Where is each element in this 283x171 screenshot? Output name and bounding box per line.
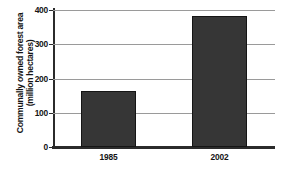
y-tick-mark bbox=[49, 113, 53, 114]
x-axis-label-2002: 2002 bbox=[211, 152, 229, 162]
y-tick-label: 100 bbox=[35, 108, 48, 118]
x-axis-label-1985: 1985 bbox=[100, 152, 118, 162]
y-tick-label: 400 bbox=[35, 5, 48, 15]
bar-1985 bbox=[81, 91, 136, 148]
plot-area: 0100200300400 bbox=[53, 10, 275, 147]
y-tick-mark bbox=[49, 79, 53, 80]
y-tick-mark bbox=[49, 44, 53, 45]
bar-chart: Communally owned forest area (million he… bbox=[0, 0, 283, 171]
y-tick-label: 300 bbox=[35, 39, 48, 49]
y-tick-label: 0 bbox=[44, 142, 48, 152]
y-tick-label: 200 bbox=[35, 74, 48, 84]
gridline bbox=[53, 10, 275, 11]
y-tick-mark bbox=[49, 147, 53, 148]
bar-2002 bbox=[192, 16, 247, 147]
y-tick-mark bbox=[49, 10, 53, 11]
